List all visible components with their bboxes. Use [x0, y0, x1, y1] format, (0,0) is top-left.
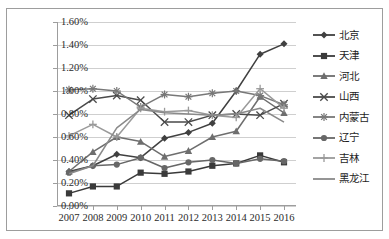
data-point-marker	[90, 183, 96, 189]
y-axis-tick-label: 0.60%	[61, 132, 88, 143]
data-point-marker	[89, 148, 96, 155]
y-axis-tick-label: 1.20%	[61, 63, 88, 74]
x-axis-tick-mark	[117, 206, 118, 210]
x-axis-tick-label: 2016	[274, 213, 295, 224]
legend-label: 吉林	[339, 153, 359, 164]
legend-label: 北京	[339, 30, 359, 41]
data-point-marker	[66, 190, 72, 196]
legend-item-3[interactable]: 河北	[312, 66, 386, 87]
y-axis-tick-mark	[53, 206, 57, 207]
x-axis-tick-mark	[212, 206, 213, 210]
x-axis-tick-label: 2011	[154, 213, 175, 224]
legend-marker-icon	[312, 90, 336, 104]
chart-frame: 0.00%0.20%0.40%0.60%0.80%1.00%1.20%1.40%…	[6, 8, 383, 231]
x-axis-tick-mark	[141, 206, 142, 210]
legend-item-7[interactable]: 吉林	[312, 148, 386, 169]
series-2	[66, 152, 287, 196]
data-point-marker	[233, 160, 239, 166]
series-layer	[57, 22, 296, 206]
y-axis-tick-label: 1.60%	[61, 17, 88, 28]
legend-marker-icon	[312, 151, 336, 165]
x-axis-tick-label: 2008	[82, 213, 103, 224]
legend-label: 天津	[339, 50, 359, 61]
legend-label: 内蒙古	[339, 112, 369, 123]
legend-item-2[interactable]: 天津	[312, 46, 386, 67]
x-axis-tick-label: 2007	[59, 213, 80, 224]
legend-label: 黑龙江	[339, 173, 369, 184]
y-axis-tick-label: 0.20%	[61, 178, 88, 189]
y-axis-tick-label: 1.00%	[61, 86, 88, 97]
data-point-marker	[114, 183, 120, 189]
chart-container: 0.00%0.20%0.40%0.60%0.80%1.00%1.20%1.40%…	[0, 0, 389, 239]
data-point-marker	[185, 159, 191, 165]
y-axis-tick-label: 1.40%	[61, 40, 88, 51]
series-line	[69, 108, 284, 174]
chart-legend: 北京天津河北山西内蒙古辽宁吉林黑龙江	[312, 25, 386, 189]
data-point-marker	[185, 168, 191, 174]
legend-marker-icon	[312, 172, 336, 186]
series-4	[65, 92, 287, 126]
data-point-marker	[209, 157, 215, 163]
y-axis-tick-label: 0.40%	[61, 155, 88, 166]
data-point-marker	[209, 163, 215, 169]
x-axis-tick-label: 2013	[202, 213, 223, 224]
x-axis-tick-label: 2010	[130, 213, 151, 224]
x-axis-tick-label: 2015	[250, 213, 271, 224]
series-8	[69, 108, 284, 174]
data-point-marker	[185, 147, 192, 154]
data-point-marker	[257, 156, 263, 162]
legend-item-6[interactable]: 辽宁	[312, 128, 386, 149]
legend-item-5[interactable]: 内蒙古	[312, 107, 386, 128]
legend-label: 山西	[339, 91, 359, 102]
x-axis-tick-label: 2012	[178, 213, 199, 224]
x-axis-tick-mark	[69, 206, 70, 210]
data-point-marker	[281, 158, 287, 164]
data-point-marker	[161, 171, 167, 177]
legend-marker-icon	[312, 28, 336, 42]
legend-item-8[interactable]: 黑龙江	[312, 169, 386, 190]
x-axis-tick-mark	[165, 206, 166, 210]
x-axis-tick-mark	[260, 206, 261, 210]
legend-marker-icon	[312, 131, 336, 145]
data-point-marker	[185, 129, 192, 136]
x-axis-tick-label: 2014	[226, 213, 247, 224]
legend-marker-icon	[312, 69, 336, 83]
x-axis-tick-mark	[93, 206, 94, 210]
data-point-marker	[114, 162, 120, 168]
legend-label: 河北	[339, 71, 359, 82]
x-axis-tick-mark	[188, 206, 189, 210]
y-axis-tick-label: 0.80%	[61, 109, 88, 120]
x-axis-tick-mark	[284, 206, 285, 210]
x-axis-tick-mark	[236, 206, 237, 210]
plot-area	[57, 22, 296, 206]
legend-marker-icon	[312, 49, 336, 63]
data-point-marker	[113, 151, 120, 158]
data-point-marker	[281, 40, 288, 47]
top-caption-sliver	[4, 0, 100, 5]
data-point-marker	[138, 170, 144, 176]
x-axis-tick-label: 2009	[106, 213, 127, 224]
data-point-marker	[161, 165, 167, 171]
data-point-marker	[138, 155, 144, 161]
legend-item-4[interactable]: 山西	[312, 87, 386, 108]
series-1	[66, 40, 288, 175]
y-axis-tick-label: 0.00%	[61, 201, 88, 212]
legend-label: 辽宁	[339, 132, 359, 143]
legend-marker-icon	[312, 110, 336, 124]
series-line	[69, 158, 284, 173]
legend-item-1[interactable]: 北京	[312, 25, 386, 46]
